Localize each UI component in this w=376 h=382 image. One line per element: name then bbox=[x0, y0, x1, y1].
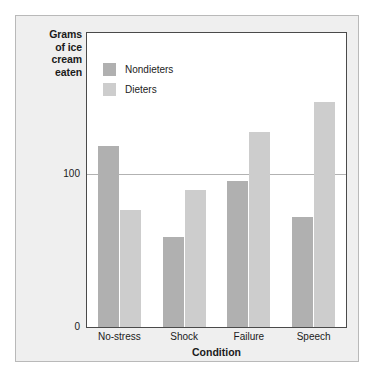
legend-swatch-dieters bbox=[103, 83, 116, 96]
bar-no-stress-dieters bbox=[120, 210, 141, 327]
bar-chart-figure: Grams of ice cream eaten 100 0 Nondieter… bbox=[0, 0, 376, 382]
bar-failure-dieters bbox=[249, 132, 270, 327]
bar-shock-dieters bbox=[185, 190, 206, 327]
x-tick-label-no-stress: No-stress bbox=[84, 331, 154, 342]
legend-label-nondieters: Nondieters bbox=[125, 64, 173, 75]
bar-no-stress-nondieters bbox=[98, 146, 119, 327]
legend-swatch-nondieters bbox=[103, 63, 116, 76]
y-tick-label-0: 0 bbox=[48, 321, 80, 332]
y-axis-title-line-3: cream bbox=[20, 53, 82, 66]
y-axis-title-line-4: eaten bbox=[20, 66, 82, 79]
gridline-100 bbox=[87, 174, 346, 175]
legend-item-nondieters: Nondieters bbox=[103, 61, 223, 77]
x-tick-label-failure: Failure bbox=[214, 331, 284, 342]
y-tick-label-100: 100 bbox=[48, 168, 80, 179]
x-tick-label-speech: Speech bbox=[279, 331, 349, 342]
bar-shock-nondieters bbox=[163, 237, 184, 327]
x-axis-title: Condition bbox=[86, 346, 347, 358]
bar-failure-nondieters bbox=[227, 181, 248, 327]
y-axis-title-line-1: Grams bbox=[20, 28, 82, 41]
bar-speech-dieters bbox=[314, 102, 335, 327]
x-tick-label-shock: Shock bbox=[149, 331, 219, 342]
legend-label-dieters: Dieters bbox=[125, 84, 157, 95]
legend-item-dieters: Dieters bbox=[103, 81, 223, 97]
y-axis-title: Grams of ice cream eaten bbox=[20, 28, 82, 78]
bar-speech-nondieters bbox=[292, 217, 313, 327]
y-axis-title-line-2: of ice bbox=[20, 41, 82, 54]
legend: Nondieters Dieters bbox=[103, 61, 223, 101]
